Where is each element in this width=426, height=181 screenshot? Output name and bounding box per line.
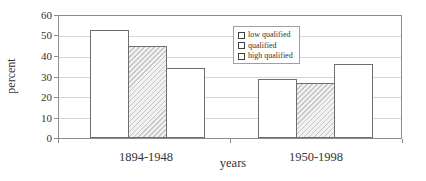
y-tick-label: 20 — [20, 91, 52, 103]
bar-low-qualified-1894-1948 — [90, 30, 129, 138]
y-tick-label: 30 — [20, 71, 52, 83]
y-tick-label: 50 — [20, 29, 52, 41]
x-axis-tick — [230, 139, 231, 143]
legend-label: high qualified — [248, 51, 293, 61]
y-axis-tick — [54, 97, 58, 98]
bar-qualified-1894-1948 — [128, 46, 167, 138]
y-axis-tick — [54, 77, 58, 78]
plot-area — [58, 15, 402, 139]
category-label-1950-1998: 1950-1998 — [271, 150, 361, 164]
bar-high-qualified-1950-1998 — [334, 64, 373, 138]
y-axis-tick — [54, 56, 58, 57]
legend-swatch-white — [238, 53, 245, 60]
bar-chart: percent 1894-1948 1950-1998 years low qu… — [0, 0, 426, 181]
y-tick-label: 40 — [20, 50, 52, 62]
bar-qualified-1950-1998 — [296, 83, 335, 138]
legend-item-qualified: qualified — [238, 41, 299, 52]
y-axis-tick — [54, 118, 58, 119]
x-axis-title: years — [203, 156, 263, 170]
legend-item-high-qualified: high qualified — [238, 51, 299, 62]
category-label-1894-1948: 1894-1948 — [101, 150, 191, 164]
y-axis-title: percent — [4, 46, 18, 106]
legend: low qualifiedqualifiedhigh qualified — [233, 26, 300, 64]
y-tick-label: 60 — [20, 9, 52, 21]
legend-item-low-qualified: low qualified — [238, 30, 299, 41]
legend-label: low qualified — [248, 30, 290, 40]
y-axis-tick — [54, 15, 58, 16]
bar-low-qualified-1950-1998 — [258, 79, 297, 138]
legend-swatch-white — [238, 32, 245, 39]
y-tick-label: 10 — [20, 112, 52, 124]
y-axis-tick — [54, 35, 58, 36]
legend-swatch-hatch — [238, 42, 245, 49]
y-tick-label: 0 — [20, 132, 52, 144]
legend-label: qualified — [248, 41, 276, 51]
bar-high-qualified-1894-1948 — [166, 68, 205, 138]
x-axis-tick — [402, 139, 403, 143]
x-axis-tick — [58, 139, 59, 143]
